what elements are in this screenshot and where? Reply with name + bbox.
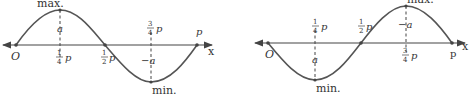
svg-text:1: 1 <box>359 18 363 26</box>
svg-text:p: p <box>156 23 163 34</box>
wave-diagrams: max. a O 1 4 p 1 2 p 3 4 p −a min. p x <box>0 0 469 98</box>
svg-text:p: p <box>366 21 373 32</box>
svg-text:p: p <box>109 52 116 63</box>
svg-text:1: 1 <box>57 49 61 57</box>
svg-text:1: 1 <box>102 49 106 57</box>
svg-text:3: 3 <box>403 47 407 55</box>
left-wave-diagram: max. a O 1 4 p 1 2 p 3 4 p −a min. p x <box>3 0 215 97</box>
right-quarter-label: 1 4 p <box>312 18 328 35</box>
right-end-point <box>450 41 454 45</box>
left-amp-bottom-label: −a <box>141 55 155 66</box>
svg-text:4: 4 <box>313 27 318 35</box>
left-min-label: min. <box>152 84 177 97</box>
left-end-point <box>195 43 199 47</box>
right-half-label: 1 2 p <box>358 18 373 35</box>
left-three-quarter-label: 3 4 p <box>147 20 163 37</box>
left-half-point <box>103 43 107 47</box>
svg-text:p: p <box>321 21 328 32</box>
left-axis-label: x <box>208 45 215 58</box>
right-amp-bottom-label: a <box>312 54 318 65</box>
left-origin-point <box>14 43 18 47</box>
right-max-label: max. <box>407 0 434 6</box>
svg-text:4: 4 <box>57 58 62 66</box>
right-origin-label: O <box>265 48 274 61</box>
svg-text:2: 2 <box>359 27 363 35</box>
left-amp-top-label: a <box>57 23 63 34</box>
svg-text:1: 1 <box>313 18 317 26</box>
left-max-label: max. <box>37 0 64 10</box>
right-amp-top-label: −a <box>398 19 412 30</box>
svg-text:4: 4 <box>403 56 408 64</box>
left-wave-curve <box>16 10 197 82</box>
right-end-label: p <box>450 48 456 59</box>
svg-text:3: 3 <box>148 20 152 28</box>
svg-text:2: 2 <box>102 58 106 66</box>
right-min-label: min. <box>316 82 341 95</box>
right-half-point <box>359 41 363 45</box>
right-axis-label: x <box>462 40 469 53</box>
svg-text:p: p <box>411 50 418 61</box>
svg-text:p: p <box>65 52 72 63</box>
right-wave-diagram: max. −a O 1 4 p a min. 1 2 p 3 4 p p x <box>255 0 469 95</box>
svg-text:4: 4 <box>148 29 153 37</box>
left-half-label: 1 2 p <box>101 49 116 66</box>
right-origin-point <box>266 41 270 45</box>
left-origin-label: O <box>11 50 20 63</box>
left-end-label: p <box>196 26 203 37</box>
left-quarter-label: 1 4 p <box>56 49 72 66</box>
right-three-quarter-label: 3 4 p <box>402 47 418 64</box>
